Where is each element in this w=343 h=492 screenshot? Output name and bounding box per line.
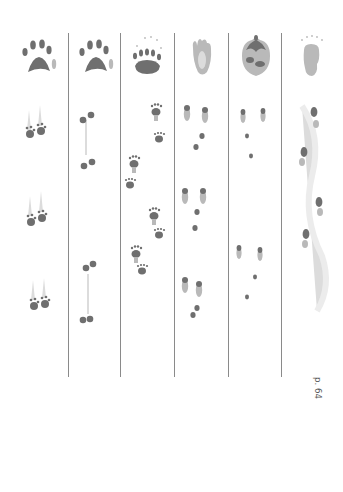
hare-hind-foot-icon [187,34,217,78]
species-label: Porcupine p. 64 [293,377,323,487]
weasel-track-group [23,186,53,246]
track-comparison-page: Long-tailed Weasel p. 54 Short-tailed We… [0,0,343,492]
column-porcupine: Porcupine p. 64 [282,0,343,492]
skunk-paw-icon [129,34,171,78]
page-reference: p. 64 [0,377,323,492]
weasel-front-paw-icon [18,36,60,76]
hare-track-group [229,96,281,356]
weasel-track-group [22,100,52,160]
weasel-track-group [26,270,56,330]
porcupine-track-group [282,96,343,316]
hare-track-group [175,96,228,356]
skunk-track-group [121,96,174,356]
weasel-track-group [77,258,107,333]
weasel-front-paw-icon [75,36,117,76]
porcupine-foot-icon [296,34,326,80]
european-hare-foot-icon [236,34,276,80]
weasel-track-group [75,100,105,175]
